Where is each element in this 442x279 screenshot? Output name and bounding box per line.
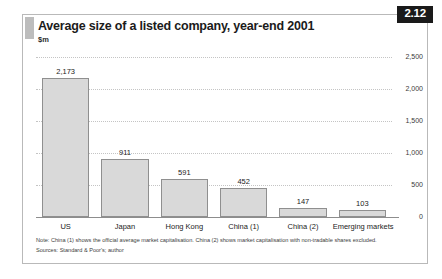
plot-area [36, 57, 392, 217]
y-axis-tick-label: 0 [395, 213, 423, 220]
bar [101, 159, 148, 217]
x-axis-category-label: China (1) [214, 222, 273, 231]
x-axis-category-label: Japan [95, 222, 154, 231]
sources-text: Sources: Standard & Poor's; author [36, 246, 417, 256]
gridline [36, 121, 392, 122]
figure-number-badge: 2.12 [397, 6, 433, 23]
bar [161, 179, 208, 217]
gridline [36, 153, 392, 154]
bar [220, 188, 267, 217]
x-axis-category-label: Emerging markets [333, 222, 392, 231]
x-axis-category-label: China (2) [273, 222, 332, 231]
page-title: Average size of a listed company, year-e… [38, 19, 314, 33]
y-axis-tick-label: 2,500 [395, 53, 423, 60]
y-axis-tick-label: 1,500 [395, 117, 423, 124]
bar-value-label: 2,173 [36, 67, 95, 76]
footnotes: Note: China (1) shows the official avera… [36, 236, 417, 256]
x-axis-category-label: US [36, 222, 95, 231]
bar-value-label: 103 [333, 199, 392, 208]
gridline [36, 89, 392, 90]
x-axis-baseline [36, 217, 399, 218]
bar-value-label: 911 [95, 148, 154, 157]
y-axis-tick-label: 2,000 [395, 85, 423, 92]
bar-value-label: 452 [214, 177, 273, 186]
figure-header: Average size of a listed company, year-e… [23, 15, 427, 53]
bar [42, 78, 89, 217]
x-axis-category-label: Hong Kong [155, 222, 214, 231]
y-axis-tick-label: 1,000 [395, 149, 423, 156]
bar-value-label: 147 [273, 197, 332, 206]
units-subtitle: $m [38, 35, 49, 44]
bar [279, 208, 326, 217]
note-text: Note: China (1) shows the official avera… [36, 236, 417, 246]
gridline [36, 57, 392, 58]
bar [339, 210, 386, 217]
figure-container: Average size of a listed company, year-e… [22, 14, 428, 264]
title-accent-bar [25, 17, 34, 39]
bar-value-label: 591 [155, 168, 214, 177]
y-axis-tick-label: 500 [395, 181, 423, 188]
